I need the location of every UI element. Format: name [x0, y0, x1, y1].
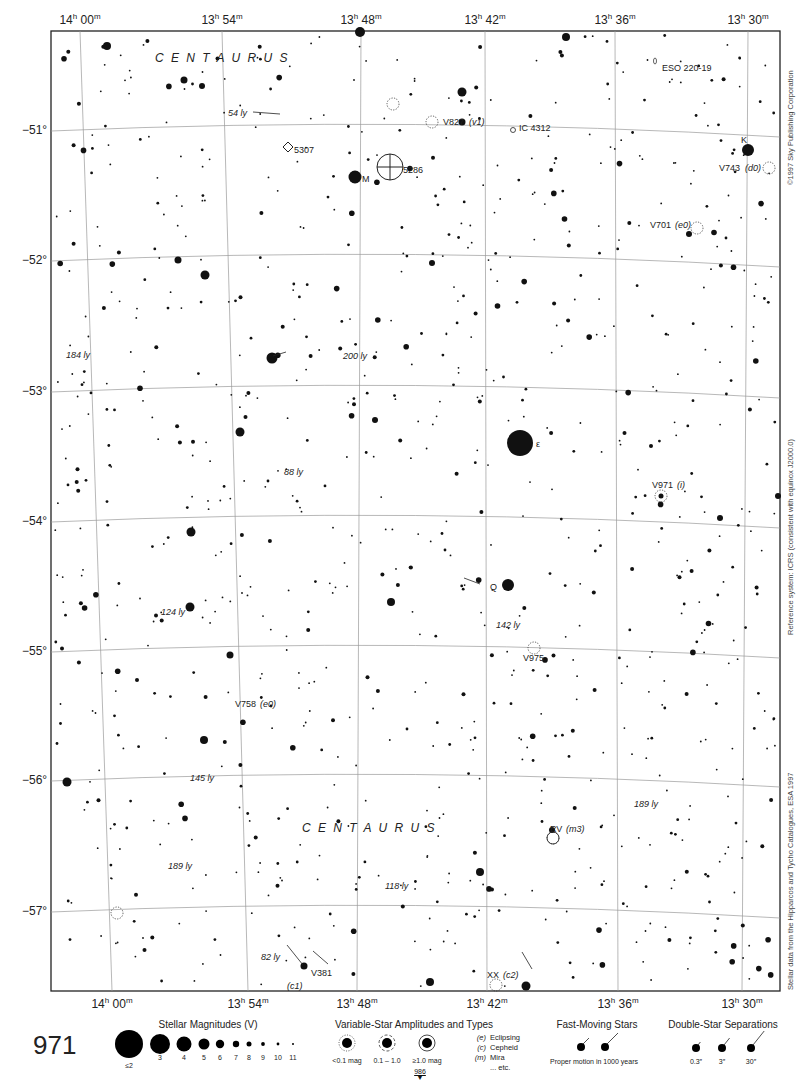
fast-moving-symbol [577, 1043, 585, 1051]
object-label: 5286 [403, 165, 423, 175]
double-star-symbol [747, 1044, 755, 1052]
bright-star [267, 353, 278, 364]
data-source-text: Stellar data from the Hipparcos and Tych… [786, 773, 795, 991]
fast-moving-caption: Proper motion in 1000 years [550, 1058, 638, 1065]
magnitude-label: 7 [234, 1054, 238, 1061]
bright-star [775, 493, 781, 499]
next-page-link[interactable]: 986 ▼ [414, 1068, 426, 1081]
ra-label-top: 14h 00m [59, 12, 100, 27]
fast-moving-legend-title: Fast-Moving Stars [556, 1019, 637, 1030]
ra-label-bottom: 13h 48m [336, 996, 377, 1011]
object-label: (e0) [675, 220, 691, 230]
reference-system-text: Reference system: ICRS (consistent with … [786, 439, 795, 635]
bright-star [426, 978, 434, 986]
bright-star [507, 430, 533, 456]
magnitude-symbol [150, 1034, 170, 1054]
double-star-legend-title: Double-Star Separations [668, 1019, 778, 1030]
ra-label-top: 13h 36m [594, 12, 635, 27]
object-label: 184 ly [66, 350, 91, 360]
bright-star [458, 88, 467, 97]
object-label: ε [536, 439, 540, 449]
bright-star [227, 652, 234, 659]
magnitude-label: 5 [202, 1054, 206, 1061]
notable-objects [111, 58, 775, 991]
variable-amp-symbol [342, 1038, 352, 1048]
double-star-symbol [692, 1044, 700, 1052]
object-label: (c1) [287, 981, 303, 991]
galaxy-eso220-icon [654, 58, 657, 64]
nebula-ic4312-icon [511, 128, 516, 133]
bright-star [522, 982, 531, 991]
ra-label-top: 13h 48m [340, 12, 381, 27]
object-label: K [741, 135, 747, 145]
copyright-text: ©1997 Sky Publishing Corporation [786, 70, 795, 185]
magnitude-symbol [292, 1043, 294, 1045]
object-label: M [362, 174, 370, 184]
variable-types-list: (e)Eclipsing (c)Cepheid (m)Mira ... etc. [468, 1033, 520, 1073]
object-label: RV [550, 824, 562, 834]
object-label: V381 [311, 968, 332, 978]
bright-star [686, 231, 692, 237]
page-number: 971 [33, 1030, 76, 1061]
object-label: (i) [677, 480, 685, 490]
object-label: V758 [235, 699, 256, 709]
object-label: 124 ly [161, 607, 186, 617]
magnitude-symbol [177, 1037, 192, 1052]
object-label: (m3) [566, 824, 585, 834]
variable-star-ring-icon [111, 907, 123, 919]
object-label: 189 ly [634, 799, 659, 809]
object-label: V701 [650, 220, 671, 230]
dec-label: −54° [22, 514, 47, 528]
magnitude-symbol [115, 1030, 143, 1058]
bright-star [187, 528, 196, 537]
magnitude-symbol [199, 1039, 210, 1050]
bright-star [63, 778, 72, 787]
bright-star [103, 42, 111, 50]
magnitude-label: 4 [182, 1054, 186, 1061]
object-label: (v1) [469, 117, 485, 127]
bright-star [175, 257, 182, 264]
dec-label: −53° [22, 384, 47, 398]
bright-star [236, 428, 245, 437]
magnitude-label: 8 [247, 1054, 251, 1061]
object-label: ESO 220-19 [662, 63, 712, 73]
ra-label-bottom: 13h 42m [466, 996, 507, 1011]
dec-label: −52° [22, 253, 47, 267]
ra-label-top: 13h 42m [464, 12, 505, 27]
ra-label-top: 13h 30m [727, 12, 768, 27]
magnitude-symbol [277, 1043, 280, 1046]
magnitude-label: 10 [274, 1054, 282, 1061]
magnitude-symbol [247, 1042, 252, 1047]
variable-star-ring-icon [763, 162, 775, 174]
fast-moving-symbol [601, 1043, 609, 1051]
chart-frame [51, 31, 780, 991]
object-label: V971 [652, 480, 673, 490]
magnitude-symbol [261, 1042, 265, 1046]
dec-label: −51° [22, 123, 47, 137]
object-label: V743 [719, 163, 740, 173]
bright-star [181, 77, 188, 84]
object-label: 54 ly [228, 108, 248, 118]
object-label: (c2) [503, 970, 519, 980]
bright-star [387, 598, 395, 606]
dec-label: −56° [22, 773, 47, 787]
bright-star [355, 27, 365, 37]
double-sep-1: 3″ [719, 1058, 725, 1065]
ra-label-bottom: 14h 00m [91, 996, 132, 1011]
variable-star-ring-icon [490, 979, 502, 991]
double-star-symbol [718, 1044, 726, 1052]
variable-amp-symbol [422, 1038, 432, 1048]
amp-label-high: ≥1.0 mag [412, 1057, 441, 1064]
object-label: 88 ly [284, 467, 304, 477]
object-label: Q [490, 582, 497, 592]
bright-star [201, 271, 210, 280]
object-label: XX [487, 970, 499, 980]
coordinate-grid [51, 31, 780, 991]
magnitude-symbol [233, 1041, 239, 1047]
dec-label: −57° [22, 904, 47, 918]
bright-star [476, 868, 484, 876]
bright-star [186, 603, 195, 612]
variable-star-ring-icon [691, 222, 703, 234]
amp-label-mid: 0.1 – 1.0 [373, 1057, 400, 1064]
object-label: (e0) [260, 699, 276, 709]
